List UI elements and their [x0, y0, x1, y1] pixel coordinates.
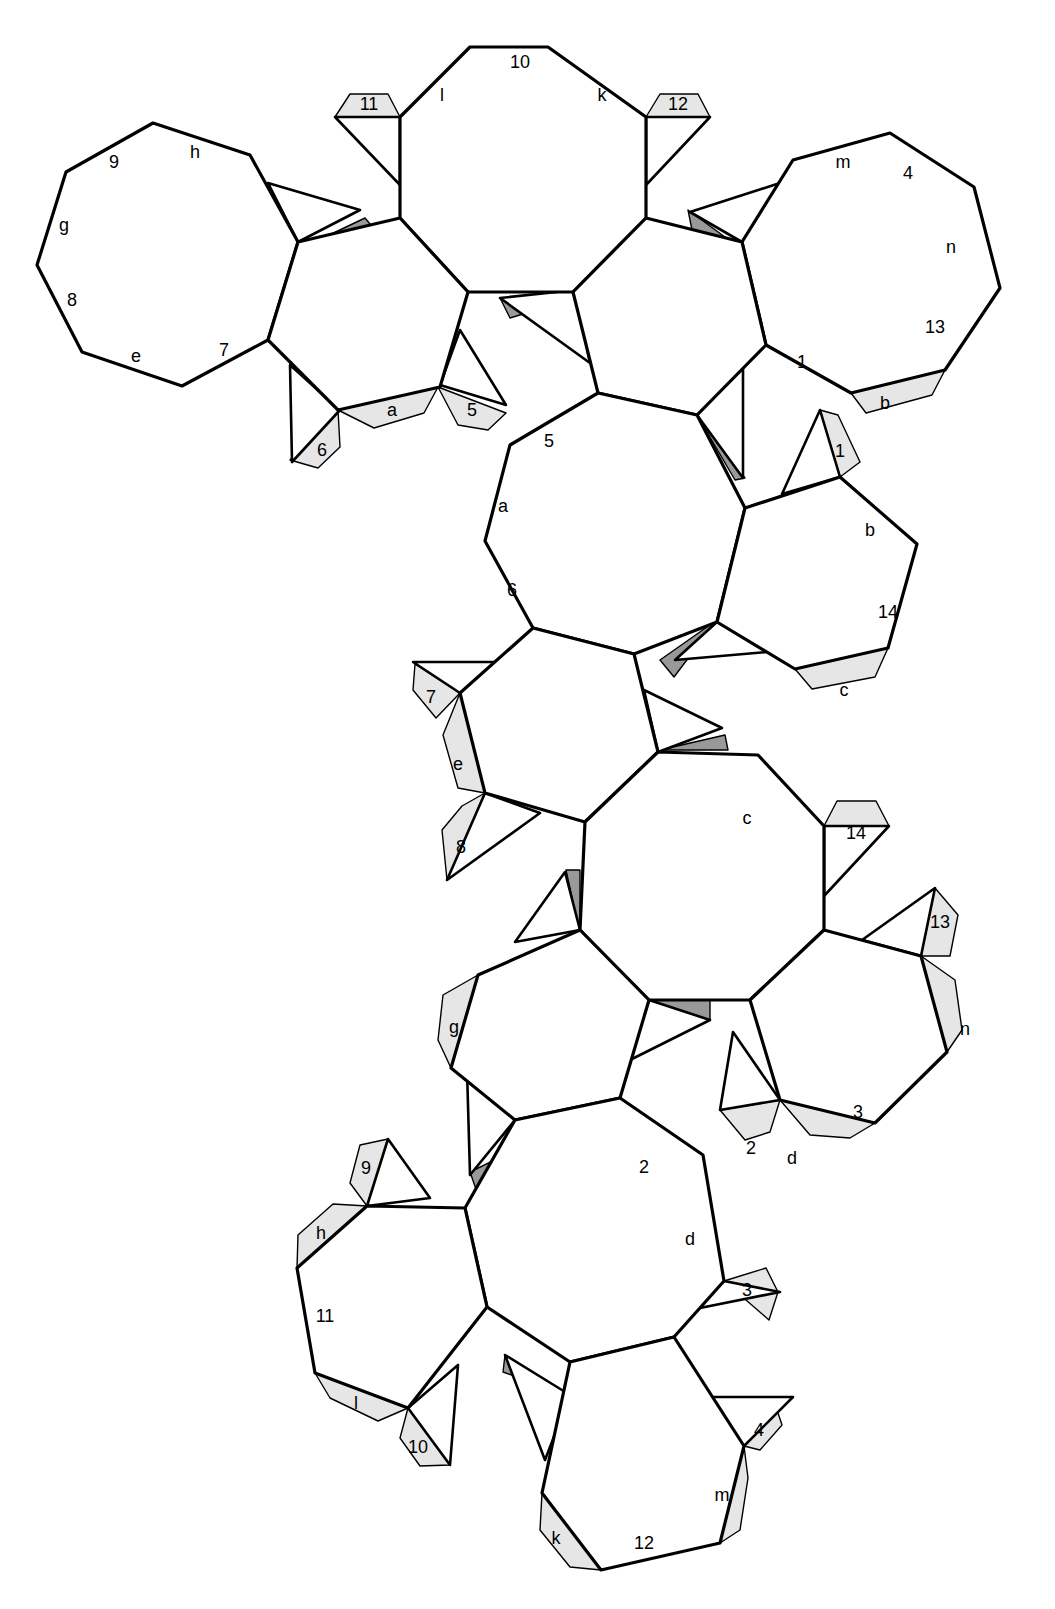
edge-label: 9: [109, 152, 119, 172]
edge-label: m: [715, 1485, 730, 1505]
edge-label: c: [840, 680, 849, 700]
edge-label: 10: [408, 1437, 428, 1457]
edge-label: 14: [878, 602, 898, 622]
edge-label: 7: [219, 340, 229, 360]
edge-label: 4: [903, 163, 913, 183]
face-octagon-right: [742, 133, 1000, 393]
edge-label: 3: [853, 1102, 863, 1122]
edge-label: 2: [746, 1138, 756, 1158]
edge-label: c: [743, 808, 752, 828]
edge-label: h: [190, 142, 200, 162]
edge-label: 13: [925, 317, 945, 337]
edge-label: 3: [742, 1280, 752, 1300]
edge-label: n: [960, 1019, 970, 1039]
edge-label: g: [449, 1017, 459, 1037]
edge-label: 12: [634, 1533, 654, 1553]
edge-label: 5: [467, 400, 477, 420]
edge-label: 1: [835, 441, 845, 461]
face-octagon-center: [485, 393, 745, 654]
edge-label: h: [316, 1223, 326, 1243]
edge-label: 4: [754, 1420, 764, 1440]
edge-label: 1: [797, 352, 807, 372]
triangle-face: [646, 117, 710, 185]
edge-label: 12: [668, 94, 688, 114]
edge-label: 8: [456, 837, 466, 857]
edge-label: 2: [639, 1157, 649, 1177]
edge-label: a: [498, 496, 509, 516]
edge-label: 14: [846, 823, 866, 843]
edge-label: 6: [507, 580, 517, 600]
edge-label: 13: [930, 912, 950, 932]
edge-label: e: [453, 754, 463, 774]
edge-label: 7: [426, 687, 436, 707]
triangle-face: [335, 117, 400, 185]
face-octagon-top-left: [37, 123, 298, 386]
edge-label: k: [552, 1528, 562, 1548]
edge-label: g: [59, 215, 69, 235]
edge-label: d: [685, 1229, 695, 1249]
edge-label: 10: [510, 52, 530, 72]
edge-label: 11: [316, 1306, 335, 1326]
edge-label: l: [354, 1393, 358, 1413]
edge-label: e: [131, 346, 141, 366]
edge-label: m: [836, 152, 851, 172]
edge-label: 9: [361, 1158, 371, 1178]
edge-label: 6: [317, 440, 327, 460]
edge-label: b: [865, 520, 875, 540]
edge-label: 8: [67, 290, 77, 310]
edge-label: a: [387, 400, 398, 420]
edge-label: 11: [360, 94, 379, 114]
edge-label: b: [880, 393, 890, 413]
polyhedron-net-diagram: 10lk11129hg8e7m4n131ba565a61b14c7e8c1413…: [0, 0, 1055, 1609]
edge-label: n: [946, 237, 956, 257]
edge-label: l: [440, 85, 444, 105]
edge-label: 5: [544, 431, 554, 451]
edge-label: d: [787, 1148, 797, 1168]
face-hexagon-center-right: [717, 477, 917, 669]
edge-label: k: [598, 85, 608, 105]
